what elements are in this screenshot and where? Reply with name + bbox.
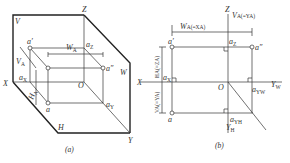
right-angle-mark — [224, 47, 228, 51]
label-ayh: aYH — [230, 115, 242, 125]
label-va-top-dimension: VA(=YA) — [232, 11, 255, 20]
label-x: X — [136, 78, 143, 87]
label-h: H — [57, 123, 65, 132]
point-a-prime — [28, 46, 32, 50]
label-o: O — [218, 83, 224, 92]
label-wa-dimension: WA(=XA) — [180, 22, 206, 31]
label-ay: aY — [106, 100, 114, 110]
label-v: V — [15, 17, 21, 26]
label-o: O — [78, 81, 84, 90]
label-ax: aX — [163, 73, 171, 83]
figure-b: Z X O YW YH a′ a″ a aZ aX aYW aYH WA(=XA… — [136, 5, 282, 150]
right-angle-mark — [224, 109, 228, 113]
caption-b: (b) — [215, 141, 224, 150]
label-a-double-prime: a″ — [106, 64, 114, 73]
label-w: W — [120, 68, 128, 77]
label-a: a — [168, 115, 172, 124]
label-a-double-prime: a″ — [255, 43, 263, 52]
point-a-double-prime — [101, 66, 105, 70]
label-z: Z — [82, 5, 87, 14]
label-yw: YW — [271, 80, 281, 90]
label-ayw: aYW — [252, 85, 266, 95]
label-a-prime: a′ — [168, 37, 174, 46]
label-wa: WA — [66, 43, 77, 53]
right-angle-mark — [248, 78, 252, 82]
label-ha-dimension: HA(=ZA) — [154, 56, 161, 78]
point-a — [46, 66, 50, 70]
right-angle-mark — [172, 78, 176, 82]
projection-diagram: V Z X Y H W O a′ a″ a aZ aX aY WA VA HA … — [0, 0, 290, 163]
label-a: a — [46, 105, 50, 114]
proj-line — [30, 48, 48, 68]
label-va: VA — [16, 57, 25, 67]
caption-a: (a) — [65, 145, 74, 154]
label-az: aZ — [229, 37, 237, 47]
point-a-double-prime — [250, 45, 254, 49]
label-x: X — [2, 79, 9, 88]
label-z: Z — [225, 5, 230, 14]
proj-line — [84, 48, 103, 68]
label-a-prime: a′ — [27, 37, 33, 46]
figure-a: V Z X Y H W O a′ a″ a aZ aX aY WA VA HA … — [2, 5, 134, 154]
label-va-left-dimension: VA(=YA) — [154, 91, 161, 113]
label-ax: aX — [19, 73, 27, 83]
label-az: aZ — [86, 40, 94, 50]
label-y: Y — [128, 136, 134, 145]
